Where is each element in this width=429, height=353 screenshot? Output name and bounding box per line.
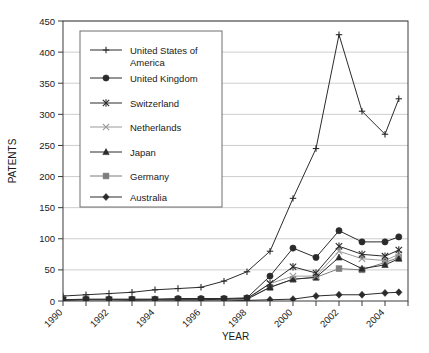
- marker-plus: [290, 195, 296, 201]
- marker-triangle: [336, 254, 342, 260]
- marker-circle: [175, 295, 181, 301]
- x-tick-label: 2000: [272, 307, 295, 330]
- y-tick-label: 200: [39, 171, 55, 182]
- marker-plus: [396, 96, 402, 102]
- series-germany: [60, 255, 402, 304]
- x-tick-label: 1996: [180, 307, 203, 330]
- y-tick-label: 0: [50, 296, 55, 307]
- y-axis: 050100150200250300350400450: [39, 16, 63, 307]
- legend-label: Australia: [130, 192, 168, 203]
- series-line: [63, 231, 399, 300]
- x-tick-label: 1990: [42, 307, 65, 330]
- legend: United States ofAmericaUnited KingdomSwi…: [80, 31, 222, 207]
- marker-circle: [103, 75, 109, 81]
- y-axis-title: PATENTS: [7, 138, 18, 183]
- series-line: [63, 257, 399, 300]
- marker-plus: [313, 145, 319, 151]
- marker-square: [103, 173, 109, 179]
- marker-diamond: [313, 293, 319, 300]
- y-tick-label: 150: [39, 202, 55, 213]
- marker-circle: [221, 295, 227, 301]
- x-tick-label: 1998: [226, 307, 249, 330]
- marker-plus: [198, 284, 204, 290]
- y-tick-label: 400: [39, 47, 55, 58]
- marker-circle: [382, 239, 388, 245]
- legend-label: Switzerland: [130, 98, 179, 109]
- marker-diamond: [396, 289, 402, 296]
- legend-label: United Kingdom: [130, 73, 198, 84]
- y-tick-label: 350: [39, 78, 55, 89]
- marker-circle: [396, 234, 402, 240]
- y-tick-label: 100: [39, 233, 55, 244]
- x-axis: 19901992199419961998200020022004: [42, 301, 408, 329]
- marker-asterisk: [290, 263, 296, 271]
- marker-circle: [313, 254, 319, 260]
- marker-plus: [336, 31, 342, 37]
- patents-by-year-chart: 050100150200250300350400450PATENTS199019…: [0, 0, 429, 353]
- marker-plus: [175, 285, 181, 291]
- y-tick-label: 450: [39, 16, 55, 27]
- marker-plus: [106, 290, 112, 296]
- marker-asterisk: [396, 246, 402, 254]
- marker-plus: [129, 289, 135, 295]
- x-tick-label: 2004: [364, 307, 387, 330]
- marker-diamond: [336, 291, 342, 298]
- marker-circle: [359, 239, 365, 245]
- marker-circle: [336, 228, 342, 234]
- marker-plus: [152, 287, 158, 293]
- legend-label: United States of: [130, 45, 198, 56]
- chart-svg: 050100150200250300350400450PATENTS199019…: [0, 0, 429, 353]
- marker-asterisk: [336, 242, 342, 250]
- legend-label: Netherlands: [130, 122, 181, 133]
- marker-circle: [267, 273, 273, 279]
- marker-asterisk: [267, 280, 273, 288]
- x-tick-label: 2002: [318, 307, 341, 330]
- marker-circle: [198, 295, 204, 301]
- marker-circle: [290, 245, 296, 251]
- marker-square: [336, 266, 342, 272]
- y-tick-label: 50: [44, 264, 55, 275]
- legend-label: Germany: [130, 171, 169, 182]
- y-tick-label: 300: [39, 109, 55, 120]
- x-axis-title: YEAR: [222, 331, 249, 342]
- marker-diamond: [382, 289, 388, 296]
- x-tick-label: 1992: [88, 307, 111, 330]
- marker-diamond: [359, 291, 365, 298]
- y-tick-label: 250: [39, 140, 55, 151]
- x-tick-label: 1994: [134, 307, 157, 330]
- series-line: [63, 257, 399, 300]
- marker-circle: [244, 295, 250, 301]
- legend-label: Japan: [130, 147, 156, 158]
- marker-plus: [221, 278, 227, 284]
- legend-label: America: [130, 57, 166, 68]
